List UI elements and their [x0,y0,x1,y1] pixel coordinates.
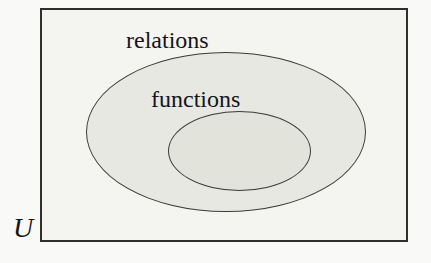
functions-label: functions [151,87,240,111]
functions-ellipse [168,111,311,191]
universe-label: U [13,214,33,242]
relations-label: relations [126,28,209,52]
euler-diagram: relations functions U [0,0,431,263]
